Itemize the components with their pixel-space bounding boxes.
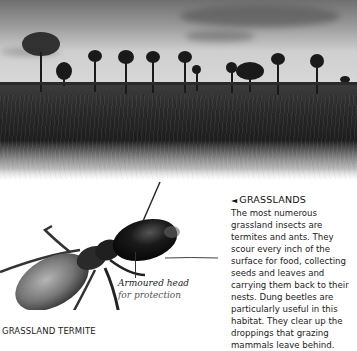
termite-caption: GRASSLAND TERMITE (2, 326, 96, 336)
sidebar-body: The most numerous grassland insects are … (231, 207, 357, 351)
annotation-leader-line (135, 252, 136, 278)
cloud (180, 5, 340, 27)
heading-text: GRASSLANDS (239, 194, 306, 205)
grasslands-sidebar: ◄GRASSLANDS The most numerous grassland … (231, 194, 357, 351)
armoured-head-annotation: Armoured head for protection (118, 277, 189, 301)
photo-fade (0, 140, 357, 180)
cloud (185, 30, 255, 42)
left-arrow-icon: ◄ (231, 196, 237, 205)
annotation-line-2: for protection (118, 289, 189, 301)
termite-illustration (0, 180, 230, 310)
grassland-photo (0, 0, 357, 180)
sidebar-heading: ◄GRASSLANDS (231, 194, 357, 207)
annotation-line-1: Armoured head (118, 277, 189, 289)
horizon-line (0, 82, 357, 85)
